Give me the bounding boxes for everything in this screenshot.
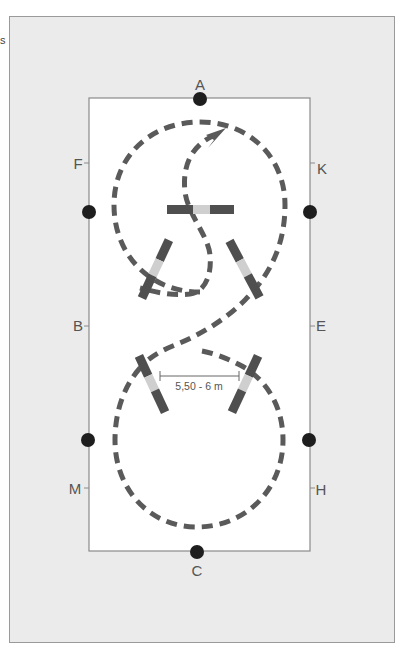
letter-F: F (73, 155, 82, 172)
letter-K: K (317, 160, 327, 177)
marker-bottom-center (190, 545, 204, 559)
marker-right-upper (303, 205, 317, 219)
letter-A: A (195, 76, 205, 93)
letter-C: C (192, 562, 203, 579)
arena-diagram: 5,50 - 6 m A C F B M K E H (0, 0, 408, 654)
marker-top-center (193, 92, 207, 106)
marker-left-upper (82, 205, 96, 219)
letter-E: E (316, 317, 326, 334)
center-top-pole (167, 205, 234, 214)
marker-right-lower (302, 433, 316, 447)
measurement-label: 5,50 - 6 m (175, 380, 223, 392)
letter-B: B (73, 317, 83, 334)
marker-left-lower (81, 433, 95, 447)
letter-H: H (316, 481, 327, 498)
letter-M: M (69, 480, 82, 497)
